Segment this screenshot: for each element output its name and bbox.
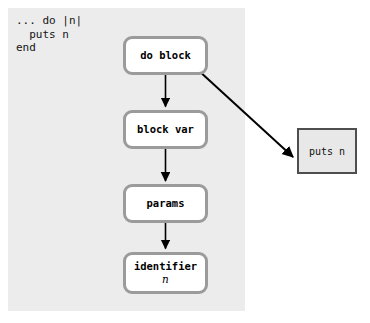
diagram-canvas: ... do |n| puts n end do block block var… <box>0 0 370 323</box>
node-identifier[interactable]: identifier n <box>123 252 208 294</box>
node-params-label: params <box>147 197 185 210</box>
node-puts-n[interactable]: puts n <box>297 128 357 174</box>
node-identifier-value: n <box>162 273 169 286</box>
node-identifier-label: identifier <box>134 260 197 273</box>
node-do-block[interactable]: do block <box>123 36 208 75</box>
node-block-var-label: block var <box>137 123 194 136</box>
node-block-var[interactable]: block var <box>123 110 208 149</box>
node-do-block-label: do block <box>140 49 191 62</box>
node-puts-n-label: puts n <box>309 146 345 157</box>
node-params[interactable]: params <box>123 184 208 223</box>
ruby-source-snippet: ... do |n| puts n end <box>16 14 82 55</box>
